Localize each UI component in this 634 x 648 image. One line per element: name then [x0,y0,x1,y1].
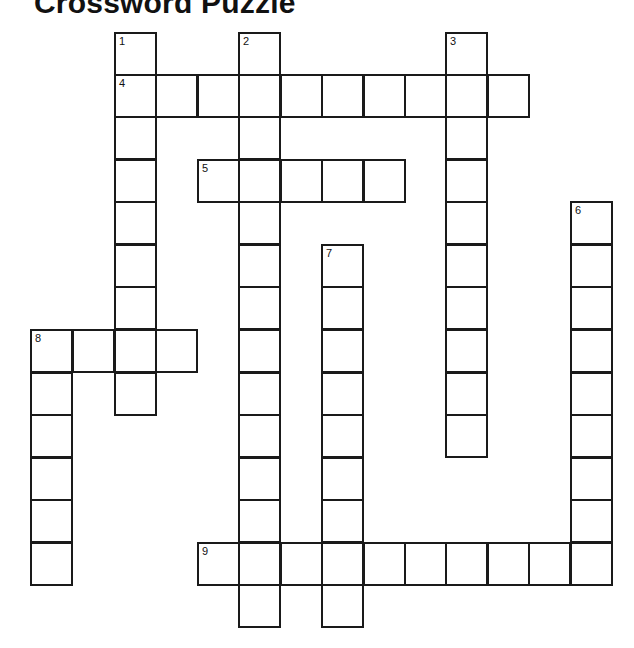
crossword-cell[interactable] [570,372,613,416]
crossword-cell[interactable] [238,329,281,373]
crossword-cell[interactable] [404,74,447,118]
clue-number: 9 [202,546,208,557]
crossword-cell[interactable] [321,457,364,501]
clue-number: 8 [35,333,41,344]
crossword-cell[interactable] [321,542,364,586]
crossword-cell[interactable] [321,584,364,628]
crossword-cell[interactable] [238,74,281,118]
crossword-cell[interactable] [321,414,364,458]
crossword-cell[interactable] [445,372,488,416]
clue-number: 4 [119,78,125,89]
clue-number: 3 [450,36,456,47]
crossword-cell[interactable]: 4 [114,74,157,118]
crossword-cell[interactable] [238,116,281,160]
crossword-cell[interactable] [238,414,281,458]
crossword-cell[interactable] [30,372,73,416]
crossword-cell[interactable] [363,542,406,586]
crossword-cell[interactable]: 3 [445,32,488,76]
crossword-cell[interactable] [114,201,157,245]
crossword-cell[interactable] [114,329,157,373]
crossword-cell[interactable] [155,329,198,373]
crossword-cell[interactable] [404,542,447,586]
crossword-cell[interactable] [238,372,281,416]
crossword-cell[interactable] [445,244,488,288]
crossword-cell[interactable] [363,159,406,203]
crossword-cell[interactable] [280,159,323,203]
crossword-cell[interactable] [570,542,613,586]
crossword-cell[interactable] [30,499,73,543]
crossword-cell[interactable] [238,159,281,203]
crossword-cell[interactable] [238,499,281,543]
crossword-cell[interactable] [114,116,157,160]
crossword-cell[interactable] [487,74,530,118]
crossword-cell[interactable] [570,414,613,458]
crossword-cell[interactable]: 9 [197,542,240,586]
crossword-cell[interactable] [114,286,157,330]
crossword-cell[interactable] [570,329,613,373]
crossword-cell[interactable] [570,286,613,330]
crossword-cell[interactable] [321,499,364,543]
crossword-cell[interactable] [321,286,364,330]
crossword-cell[interactable] [238,286,281,330]
crossword-cell[interactable]: 5 [197,159,240,203]
crossword-cell[interactable] [197,74,240,118]
crossword-cell[interactable] [30,414,73,458]
clue-number: 5 [202,163,208,174]
clue-number: 2 [243,36,249,47]
crossword-cell[interactable] [445,414,488,458]
crossword-cell[interactable] [238,542,281,586]
clue-number: 1 [119,36,125,47]
crossword-cell[interactable] [280,74,323,118]
crossword-cell[interactable] [280,542,323,586]
crossword-cell[interactable] [72,329,115,373]
crossword-cell[interactable] [445,542,488,586]
crossword-cell[interactable] [570,457,613,501]
crossword-cell[interactable] [445,286,488,330]
crossword-cell[interactable] [445,201,488,245]
crossword-cell[interactable] [363,74,406,118]
crossword-cell[interactable]: 6 [570,201,613,245]
crossword-cell[interactable] [570,244,613,288]
crossword-cell[interactable] [321,74,364,118]
crossword-cell[interactable] [114,244,157,288]
crossword-cell[interactable]: 8 [30,329,73,373]
crossword-cell[interactable] [155,74,198,118]
crossword-cell[interactable]: 7 [321,244,364,288]
crossword-cell[interactable] [445,74,488,118]
crossword-cell[interactable] [238,244,281,288]
crossword-cell[interactable] [238,457,281,501]
crossword-cell[interactable] [30,457,73,501]
crossword-cell[interactable] [30,542,73,586]
crossword-cell[interactable] [114,159,157,203]
crossword-cell[interactable] [321,159,364,203]
crossword-cell[interactable]: 1 [114,32,157,76]
crossword-cell[interactable] [445,116,488,160]
clue-number: 6 [575,205,581,216]
crossword-cell[interactable] [321,329,364,373]
crossword-cell[interactable] [445,329,488,373]
crossword-cell[interactable] [445,159,488,203]
crossword-cell[interactable] [321,372,364,416]
crossword-cell[interactable]: 2 [238,32,281,76]
crossword-cell[interactable] [114,372,157,416]
crossword-cell[interactable] [238,584,281,628]
crossword-grid: 142356789 [0,0,634,648]
crossword-cell[interactable] [570,499,613,543]
crossword-cell[interactable] [487,542,530,586]
crossword-cell[interactable] [528,542,571,586]
clue-number: 7 [326,248,332,259]
crossword-cell[interactable] [238,201,281,245]
